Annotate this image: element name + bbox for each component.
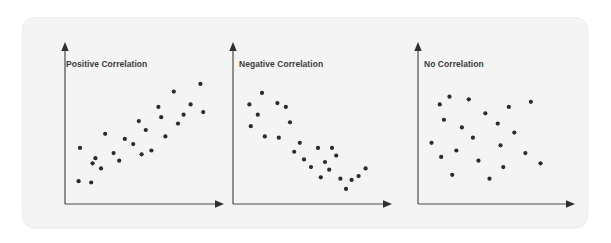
data-point	[256, 113, 260, 117]
data-point	[89, 180, 93, 184]
data-points-negative-correlation	[247, 91, 367, 191]
data-point	[201, 110, 205, 114]
data-point	[523, 151, 527, 155]
page-root: · · · · Positive Correlation	[0, 0, 611, 243]
data-point	[309, 165, 313, 169]
data-point	[487, 177, 491, 181]
data-point	[247, 102, 251, 106]
chart-panel-negative-correlation: Negative Correlation	[219, 18, 404, 227]
data-point	[439, 155, 443, 159]
chart-panel-positive-correlation: Positive Correlation	[33, 18, 223, 227]
data-point	[284, 105, 288, 109]
data-point	[99, 166, 103, 170]
chart-card: Positive Correlation Negative Correlatio…	[22, 17, 588, 228]
x-axis-arrow-icon	[383, 200, 392, 207]
data-point	[172, 90, 176, 94]
scatter-plot-negative-correlation	[219, 18, 404, 229]
axes-negative-correlation	[229, 42, 392, 208]
data-point	[137, 119, 141, 123]
data-point	[344, 187, 348, 191]
data-point	[302, 157, 306, 161]
margin-artifact: ·	[593, 196, 596, 206]
data-point	[438, 102, 442, 106]
data-point	[103, 132, 107, 136]
data-point	[512, 130, 516, 134]
margin-artifact: ·	[593, 176, 596, 186]
data-point	[189, 102, 193, 106]
data-point	[467, 97, 471, 101]
chart-panel-no-correlation: No Correlation	[404, 18, 584, 227]
data-point	[159, 115, 163, 119]
data-point	[447, 95, 451, 99]
data-point	[275, 101, 279, 105]
data-point	[334, 154, 338, 158]
data-point	[316, 146, 320, 150]
data-point	[350, 178, 354, 182]
data-points-no-correlation	[429, 95, 542, 181]
data-point	[93, 156, 97, 160]
data-point	[330, 146, 334, 150]
data-point	[460, 125, 464, 129]
data-point	[529, 100, 533, 104]
data-point	[288, 120, 292, 124]
data-point	[77, 179, 81, 183]
data-point	[483, 111, 487, 115]
data-point	[450, 173, 454, 177]
margin-artifact: ·	[593, 36, 596, 46]
data-point	[263, 134, 267, 138]
data-point	[156, 105, 160, 109]
data-point	[117, 159, 121, 163]
data-point	[338, 177, 342, 181]
data-point	[277, 136, 281, 140]
y-axis-arrow-icon	[414, 42, 421, 51]
data-point	[176, 122, 180, 126]
y-axis-arrow-icon	[229, 42, 236, 51]
data-point	[454, 148, 458, 152]
data-point	[198, 82, 202, 86]
data-point	[182, 113, 186, 117]
margin-artifact: ·	[594, 22, 597, 32]
data-point	[319, 175, 323, 179]
y-axis-arrow-icon	[61, 42, 68, 51]
data-point	[442, 118, 446, 122]
data-point	[149, 148, 153, 152]
data-point	[476, 159, 480, 163]
data-points-positive-correlation	[77, 82, 206, 185]
data-point	[429, 141, 433, 145]
data-point	[501, 165, 505, 169]
data-point	[91, 161, 95, 165]
data-point	[78, 146, 82, 150]
data-point	[140, 152, 144, 156]
data-point	[364, 166, 368, 170]
data-point	[292, 150, 296, 154]
data-point	[323, 160, 327, 164]
data-point	[357, 174, 361, 178]
data-point	[249, 124, 253, 128]
scatter-plot-no-correlation	[404, 18, 584, 229]
data-point	[471, 136, 475, 140]
data-point	[112, 151, 116, 155]
data-point	[298, 141, 302, 145]
data-point	[496, 122, 500, 126]
x-axis-arrow-icon	[566, 200, 575, 207]
chart-panels: Positive Correlation Negative Correlatio…	[23, 18, 587, 227]
data-point	[144, 128, 148, 132]
data-point	[260, 91, 264, 95]
data-point	[507, 105, 511, 109]
axes-positive-correlation	[61, 42, 224, 208]
data-point	[498, 143, 502, 147]
data-point	[123, 137, 127, 141]
scatter-plot-positive-correlation	[33, 18, 223, 229]
data-point	[327, 168, 331, 172]
data-point	[163, 134, 167, 138]
data-point	[538, 161, 542, 165]
data-point	[131, 142, 135, 146]
axes-no-correlation	[414, 42, 575, 208]
